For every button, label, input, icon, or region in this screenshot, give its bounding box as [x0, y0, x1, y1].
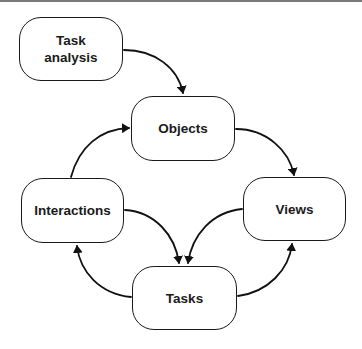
- arrow-interactions-to-tasks: [125, 210, 179, 263]
- arrow-views-to-tasks: [188, 209, 242, 263]
- node-tasks: Tasks: [132, 266, 237, 330]
- arrow-objects-to-views: [236, 129, 294, 175]
- node-objects: Objects: [131, 96, 235, 161]
- node-views: Views: [243, 177, 346, 241]
- node-label: Objects: [158, 120, 208, 137]
- node-label: Tasks: [166, 290, 203, 307]
- arrow-interactions-to-objects: [71, 128, 129, 177]
- node-label: Interactions: [34, 202, 111, 219]
- diagram-canvas: Task analysis Objects Views Interactions…: [0, 0, 362, 349]
- node-task-analysis: Task analysis: [19, 17, 123, 81]
- arrow-tasks-to-interactions: [77, 246, 131, 297]
- arrow-task-analysis-to-objects: [124, 50, 183, 93]
- node-label: Views: [275, 201, 313, 218]
- node-interactions: Interactions: [21, 178, 124, 243]
- arrow-tasks-to-views: [238, 244, 292, 296]
- node-label: Task analysis: [44, 32, 97, 66]
